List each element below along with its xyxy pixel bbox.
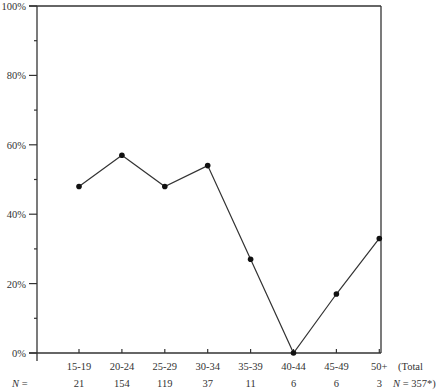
data-point	[334, 291, 340, 297]
x-tick-label: 20-24	[110, 361, 135, 372]
data-line	[79, 155, 379, 353]
x-tick-label: 45-49	[324, 361, 349, 372]
n-value: 37	[202, 378, 213, 389]
x-tick-label: 15-19	[67, 361, 92, 372]
n-value: 21	[74, 378, 85, 389]
data-point	[291, 350, 297, 356]
data-point	[119, 152, 125, 158]
y-tick-label: 100%	[2, 1, 27, 12]
y-tick-label: 20%	[7, 279, 27, 290]
y-tick-label: 40%	[7, 209, 27, 220]
n-value: 3	[377, 378, 382, 389]
n-value: 6	[334, 378, 339, 389]
data-point	[248, 257, 254, 263]
data-point	[205, 163, 211, 169]
x-tick-label: 35-39	[238, 361, 263, 372]
n-value: 11	[246, 378, 256, 389]
x-tick-label: 30-34	[195, 361, 220, 372]
y-tick-label: 80%	[7, 70, 27, 81]
total-n-label: N = 357*)	[392, 378, 436, 390]
n-value: 6	[291, 378, 296, 389]
data-point	[76, 184, 82, 190]
n-value: 119	[157, 378, 172, 389]
x-tick-label: 50+	[371, 361, 388, 372]
data-point	[377, 236, 383, 242]
y-tick-label: 60%	[7, 140, 27, 151]
data-point	[162, 184, 168, 190]
n-value: 154	[114, 378, 131, 389]
y-tick-label: 0%	[12, 348, 26, 359]
x-tick-label: 25-29	[153, 361, 178, 372]
total-label: (Total	[398, 361, 423, 373]
n-label: N =	[11, 378, 28, 389]
line-chart: 0%20%40%60%80%100%15-192120-2415425-2911…	[0, 0, 437, 391]
x-tick-label: 40-44	[281, 361, 306, 372]
